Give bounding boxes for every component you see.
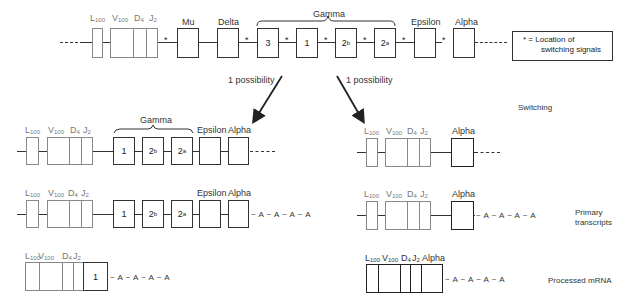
- label-V100: V100: [48, 126, 64, 135]
- label-J2: J2: [420, 190, 428, 199]
- label-alpha: Alpha: [228, 126, 251, 135]
- gene-epsilon: [199, 137, 221, 165]
- legend-line-1: * = Location of: [519, 35, 606, 45]
- label-alpha: Alpha: [452, 190, 475, 199]
- label-delta: Delta: [218, 18, 239, 27]
- gene-gamma-3: 3: [257, 28, 279, 58]
- legend-box: * = Location of switching signals: [512, 31, 613, 61]
- label-J2: J2: [73, 252, 81, 261]
- label-V100: V100: [386, 127, 402, 136]
- label-V100: V100: [112, 14, 128, 23]
- gene-gamma-2a: 2a: [171, 200, 193, 228]
- label-V100: V100: [38, 252, 54, 261]
- mrna-gamma-1: 1: [83, 262, 108, 291]
- mrna-LVDJ-alpha: [366, 264, 443, 293]
- label-D4: D4: [62, 252, 72, 261]
- segment-VDJ: [110, 28, 158, 58]
- label-J2: J2: [149, 14, 157, 23]
- label-L100: L100: [25, 126, 40, 135]
- label-D4: D4: [407, 127, 417, 136]
- label-L100: L100: [364, 127, 379, 136]
- gene-alpha: [451, 201, 474, 230]
- gene-gamma-2b: 2b: [142, 200, 164, 228]
- label-D4: D4: [407, 190, 417, 199]
- polyA-tail: ~ A ~ A ~ A ~ A: [110, 273, 170, 282]
- segment-VDJ: [47, 200, 93, 228]
- gene-gamma-2a: 2a: [374, 28, 396, 58]
- label-alpha: Alpha: [422, 254, 445, 263]
- switch-signal-star: *: [442, 36, 446, 45]
- label-J2: J2: [83, 126, 91, 135]
- segment-VDJ: [385, 138, 431, 167]
- mrna-LVDJ: [25, 262, 84, 291]
- polyA-tail: ~ A ~ A ~ A ~ A: [251, 210, 311, 219]
- gene-gamma-2a: 2a: [171, 137, 193, 165]
- label-V100: V100: [386, 190, 402, 199]
- gene-alpha: [451, 138, 474, 167]
- label-L100: L100: [365, 254, 380, 263]
- label-gamma: Gamma: [313, 10, 345, 19]
- label-switching: Switching: [518, 103, 552, 113]
- label-J2: J2: [81, 189, 89, 198]
- label-V100: V100: [382, 254, 398, 263]
- gene-gamma-1: 1: [113, 137, 135, 165]
- gene-alpha: [453, 28, 475, 58]
- label-D4: D4: [70, 126, 80, 135]
- label-alpha: Alpha: [228, 189, 251, 198]
- gene-alpha: [228, 137, 249, 165]
- switch-signal-star: *: [363, 36, 367, 45]
- switch-signal-star: *: [324, 36, 328, 45]
- label-mu: Mu: [182, 18, 195, 27]
- label-primary-transcripts: Primary transcripts: [575, 208, 612, 228]
- segment-L100: [366, 138, 378, 167]
- switch-signal-star: *: [245, 36, 249, 45]
- label-epsilon: Epsilon: [197, 126, 227, 135]
- switch-signal-star: *: [402, 36, 406, 45]
- label-L100: L100: [25, 189, 40, 198]
- label-D4: D4: [68, 189, 78, 198]
- gene-gamma-2b: 2b: [142, 137, 164, 165]
- arrow-label-left: 1 possibility: [228, 76, 275, 85]
- label-D4: D4: [134, 14, 144, 23]
- segment-VDJ: [47, 137, 93, 165]
- polyA-tail: ~ A ~ A ~ A ~ A: [445, 275, 505, 284]
- gene-gamma-2b: 2b: [335, 28, 357, 58]
- label-epsilon: Epsilon: [411, 18, 441, 27]
- label-alpha: Alpha: [452, 127, 475, 136]
- polyA-tail: ~ A ~ A ~ A ~ A: [476, 211, 536, 220]
- segment-L100: [26, 200, 39, 228]
- dashed-line-right: [475, 42, 507, 43]
- gene-gamma-1: 1: [296, 28, 318, 58]
- segment-L100: [366, 201, 378, 230]
- gene-gamma-1: 1: [113, 200, 135, 228]
- gene-epsilon: [199, 200, 221, 228]
- label-L100: L100: [90, 14, 105, 23]
- label-D4: D4: [401, 254, 411, 263]
- label-gamma: Gamma: [140, 116, 172, 125]
- segment-L100: [26, 137, 39, 165]
- label-J2: J2: [420, 127, 428, 136]
- arrow-label-right: 1 possibility: [346, 76, 393, 85]
- gene-delta: [217, 28, 239, 58]
- label-J2: J2: [412, 254, 420, 263]
- segment-VDJ: [385, 201, 431, 230]
- dashed-line-right: [475, 152, 500, 153]
- segment-L100: [92, 28, 103, 58]
- label-epsilon: Epsilon: [197, 189, 227, 198]
- label-alpha: Alpha: [455, 18, 478, 27]
- legend-line-2: switching signals: [519, 45, 606, 55]
- label-processed-mrna: Processed mRNA: [548, 276, 612, 286]
- label-L100: L100: [364, 190, 379, 199]
- gene-alpha: [228, 200, 249, 228]
- gene-epsilon: [414, 28, 436, 58]
- dashed-line-right: [250, 151, 275, 152]
- label-V100: V100: [48, 189, 64, 198]
- switch-signal-star: *: [285, 36, 289, 45]
- switch-signal-star: *: [164, 36, 168, 45]
- gene-mu: [177, 28, 199, 58]
